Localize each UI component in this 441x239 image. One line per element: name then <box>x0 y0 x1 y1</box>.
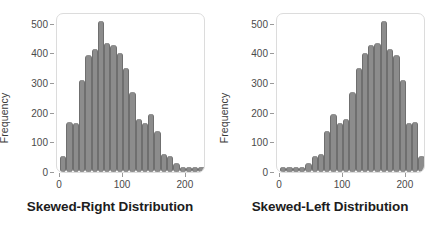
y-tick-label: 200 <box>251 108 268 120</box>
x-tick-label: 0 <box>259 179 299 190</box>
bar <box>349 92 355 172</box>
x-tick-label: 200 <box>385 179 425 190</box>
y-tick-mark <box>50 53 54 54</box>
bar <box>92 49 98 172</box>
x-tick-label: 100 <box>102 179 142 190</box>
y-tick-mark <box>50 24 54 25</box>
y-tick-mark <box>270 142 274 143</box>
x-axis-ticks-left: 0100200 <box>56 173 205 195</box>
bar <box>393 55 399 172</box>
bar <box>173 163 179 172</box>
bar <box>154 131 160 172</box>
bar <box>400 80 406 172</box>
bar <box>85 55 91 172</box>
y-tick-mark <box>270 24 274 25</box>
x-tick-mark <box>59 173 60 177</box>
bar <box>305 163 311 172</box>
bar <box>374 43 380 172</box>
x-tick-mark <box>279 173 280 177</box>
x-tick-label: 0 <box>39 179 79 190</box>
bar <box>312 156 318 172</box>
plot-area-skewed-right <box>56 13 205 173</box>
y-tick-label: 0 <box>42 167 48 179</box>
x-tick-label: 100 <box>322 179 362 190</box>
plot-area-skewed-left <box>276 13 425 173</box>
y-tick-mark <box>50 83 54 84</box>
y-axis-ticks-right: 0100200300400500 <box>238 13 274 173</box>
bar-series-skewed-left <box>277 13 424 172</box>
panel-skewed-right: Frequency 0100200300400500 0100200 Skewe… <box>0 0 220 239</box>
y-tick-label: 400 <box>251 48 268 60</box>
x-tick-mark <box>405 173 406 177</box>
bar <box>198 167 204 172</box>
y-tick-mark <box>270 53 274 54</box>
bar <box>418 156 424 172</box>
y-axis-label-left: Frequency <box>0 63 10 173</box>
bar <box>136 119 142 172</box>
bar <box>330 114 336 172</box>
y-tick-mark <box>270 113 274 114</box>
bar <box>180 167 186 172</box>
histogram-figure: Frequency 0100200300400500 0100200 Skewe… <box>0 0 441 239</box>
x-tick-mark <box>342 173 343 177</box>
bar <box>110 45 116 172</box>
y-tick-mark <box>50 113 54 114</box>
caption-skewed-right: Skewed-Right Distribution <box>0 199 220 214</box>
y-tick-label: 500 <box>251 19 268 31</box>
bar-series-skewed-right <box>57 13 204 172</box>
x-tick-label: 200 <box>165 179 205 190</box>
y-tick-label: 200 <box>31 108 48 120</box>
x-tick-mark <box>185 173 186 177</box>
y-axis-label-right: Frequency <box>218 63 230 173</box>
x-axis-ticks-right: 0100200 <box>276 173 425 195</box>
y-tick-mark <box>50 142 54 143</box>
y-tick-mark <box>50 172 54 173</box>
y-tick-label: 300 <box>31 78 48 90</box>
bar <box>286 167 292 172</box>
y-tick-label: 300 <box>251 78 268 90</box>
y-tick-mark <box>270 83 274 84</box>
y-tick-mark <box>270 172 274 173</box>
bar <box>356 68 362 172</box>
y-tick-label: 500 <box>31 19 48 31</box>
y-axis-ticks-left: 0100200300400500 <box>18 13 54 173</box>
panel-skewed-left: Frequency 0100200300400500 0100200 Skewe… <box>220 0 440 239</box>
bar <box>66 122 72 172</box>
y-tick-label: 100 <box>31 137 48 149</box>
caption-skewed-left: Skewed-Left Distribution <box>220 199 440 214</box>
bar <box>129 92 135 172</box>
y-tick-label: 400 <box>31 48 48 60</box>
y-tick-label: 100 <box>251 137 268 149</box>
x-tick-mark <box>122 173 123 177</box>
y-tick-label: 0 <box>262 167 268 179</box>
